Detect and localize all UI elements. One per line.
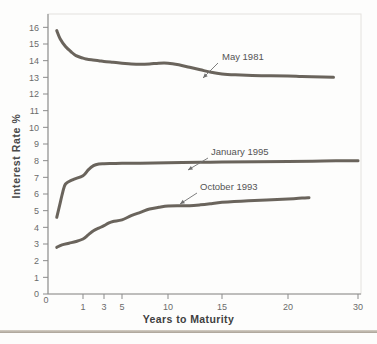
y-tick-label: 13 (29, 73, 39, 83)
x-tick-label: 30 (353, 302, 363, 312)
x-tick-label: 20 (283, 302, 293, 312)
plot-frame (48, 14, 361, 294)
x-tick-label: 15 (217, 302, 227, 312)
y-tick-label: 2 (34, 256, 39, 266)
series-annotation-label: May 1981 (222, 51, 264, 62)
y-tick-label: 1 (34, 273, 39, 283)
y-tick-label: 7 (34, 173, 39, 183)
y-tick-label: 9 (34, 139, 39, 149)
axis-lines (48, 14, 361, 294)
chart-canvas: 012345678910111213141516 013510152030 Ma… (0, 0, 377, 344)
annotation-arrowhead (180, 200, 185, 204)
x-tick-label: 3 (101, 302, 106, 312)
x-tick-label: 0 (43, 295, 48, 305)
y-tick-label: 6 (34, 189, 39, 199)
y-axis-ticks: 012345678910111213141516 (29, 23, 48, 300)
series-annotation-label: January 1995 (211, 146, 269, 157)
chart-figure: Interest Rate % 012345678910111213141516… (0, 0, 377, 344)
y-tick-label: 15 (29, 39, 39, 49)
page-bottom-rule (0, 330, 377, 333)
y-tick-label: 16 (29, 23, 39, 33)
y-tick-label: 4 (34, 223, 39, 233)
y-tick-label: 10 (29, 123, 39, 133)
y-tick-label: 0 (34, 289, 39, 299)
series-line (57, 198, 309, 248)
y-tick-label: 11 (30, 106, 39, 116)
y-axis-title: Interest Rate % (10, 96, 22, 216)
x-tick-label: 10 (163, 302, 173, 312)
series-annotation-label: October 1993 (200, 181, 258, 192)
x-axis-title: Years to Maturity (0, 313, 377, 325)
y-tick-label: 14 (29, 56, 39, 66)
data-series-group (57, 31, 358, 248)
x-tick-label: 1 (80, 302, 85, 312)
x-tick-label: 5 (119, 302, 124, 312)
y-tick-label: 8 (34, 156, 39, 166)
y-tick-label: 12 (29, 89, 39, 99)
x-axis-ticks: 013510152030 (43, 294, 363, 312)
y-tick-label: 3 (34, 239, 39, 249)
y-tick-label: 5 (34, 206, 39, 216)
series-line (57, 31, 334, 78)
